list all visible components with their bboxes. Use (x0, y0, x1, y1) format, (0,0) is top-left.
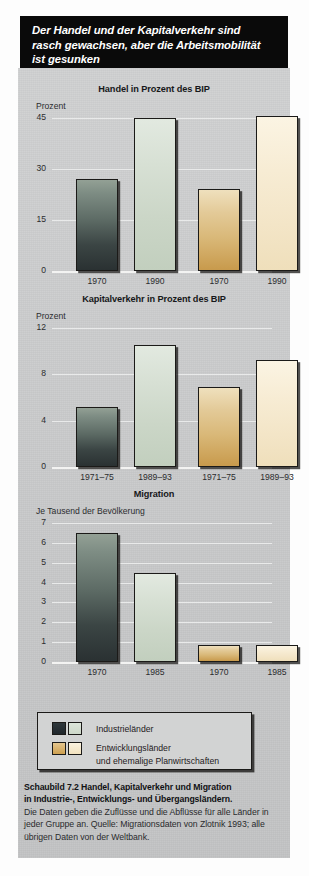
chart-kapitalverkehr: Kapitalverkehr in Prozent des BIP Prozen… (18, 294, 290, 489)
x-category-label: 1989–93 (125, 472, 185, 482)
chart-kapitalverkehr-ylabel: Prozent (36, 311, 66, 321)
y-tick-label: 4 (22, 577, 46, 587)
chart-migration-plot: 012345671970198519701985 (52, 523, 272, 662)
x-category-label: 1989–93 (247, 472, 307, 482)
x-category-label: 1971–75 (67, 472, 127, 482)
legend-swatch-industrial-light (68, 722, 82, 735)
bar (134, 345, 176, 467)
x-category-label: 1985 (247, 667, 307, 677)
y-tick-label: 1 (22, 636, 46, 646)
y-tick-label: 8 (22, 368, 46, 378)
chart-handel: Handel in Prozent des BIP Prozent 015304… (18, 84, 290, 284)
y-tick-label: 12 (22, 322, 46, 332)
legend-label-entwicklungslaender-line2: und ehemalige Planwirtschaften (96, 756, 219, 766)
x-category-label: 1985 (125, 667, 185, 677)
legend-box: Industrieländer Entwicklungsländer und e… (37, 712, 252, 770)
axis-baseline (52, 467, 272, 469)
bar (76, 533, 118, 662)
chart-migration-ylabel: Je Tausend der Bevölkerung (36, 506, 145, 516)
legend-swatch-developing-dark (52, 742, 66, 755)
caption-body: Die Daten geben die Zuflüsse und die Abf… (24, 806, 286, 843)
axis-baseline (52, 662, 272, 664)
y-tick-label: 5 (22, 557, 46, 567)
y-tick-label: 0 (22, 461, 46, 471)
y-tick-label: 3 (22, 596, 46, 606)
y-tick-label: 45 (22, 112, 46, 122)
gridline (52, 523, 272, 524)
legend-label-entwicklungslaender-line1: Entwicklungsländer (96, 743, 171, 753)
x-category-label: 1970 (67, 276, 127, 286)
bar (134, 118, 176, 271)
bar (76, 179, 118, 271)
y-tick-label: 0 (22, 265, 46, 275)
bar (198, 387, 240, 467)
x-category-label: 1970 (67, 667, 127, 677)
y-tick-label: 0 (22, 656, 46, 666)
chart-kapitalverkehr-plot: 048121971–751989–931971–751989–93 (52, 328, 272, 467)
headline-line-3: ist gesunken (32, 52, 278, 67)
x-category-label: 1970 (189, 667, 249, 677)
y-tick-label: 7 (22, 517, 46, 527)
chart-kapitalverkehr-title: Kapitalverkehr in Prozent des BIP (18, 294, 290, 304)
y-tick-label: 30 (22, 163, 46, 173)
y-tick-label: 15 (22, 214, 46, 224)
figure-page: Der Handel und der Kapitalverkehr sind r… (0, 0, 309, 876)
figure-headline-banner: Der Handel und der Kapitalverkehr sind r… (20, 16, 288, 69)
headline-line-1: Der Handel und der Kapitalverkehr sind (32, 23, 278, 38)
chart-handel-title: Handel in Prozent des BIP (18, 84, 290, 94)
axis-baseline (52, 271, 272, 273)
y-tick-label: 4 (22, 415, 46, 425)
bar (256, 645, 298, 662)
x-category-label: 1971–75 (189, 472, 249, 482)
bar (256, 116, 298, 271)
bar (256, 360, 298, 467)
caption-bold-line-2: in Industrie-, Entwicklungs- und Übergan… (24, 794, 286, 806)
gridline (52, 328, 272, 329)
chart-migration: Migration Je Tausend der Bevölkerung 012… (18, 489, 290, 704)
legend-swatch-industrial-dark (52, 722, 66, 735)
figure-caption: Schaubild 7.2 Handel, Kapitalverkehr und… (24, 782, 286, 843)
bar (198, 645, 240, 662)
headline-line-2: rasch gewachsen, aber die Arbeitsmobilit… (32, 38, 278, 53)
y-tick-label: 6 (22, 537, 46, 547)
x-category-label: 1990 (247, 276, 307, 286)
caption-bold-line-1: Schaubild 7.2 Handel, Kapitalverkehr und… (24, 782, 286, 794)
x-category-label: 1970 (189, 276, 249, 286)
legend-swatch-developing-light (68, 742, 82, 755)
bar (134, 573, 176, 662)
legend-label-industrielaender: Industrieländer (96, 724, 153, 734)
bar (76, 407, 118, 467)
chart-migration-title: Migration (18, 489, 290, 499)
chart-handel-ylabel: Prozent (36, 101, 66, 111)
y-tick-label: 2 (22, 616, 46, 626)
chart-handel-plot: 01530451970199019701990 (52, 118, 272, 271)
bar (198, 189, 240, 271)
x-category-label: 1990 (125, 276, 185, 286)
